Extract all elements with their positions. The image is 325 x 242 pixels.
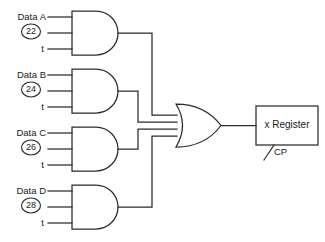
and-gate-c-number-circle	[22, 140, 41, 155]
cp-clock-label: CP	[274, 147, 287, 157]
and-gate-b-number-circle	[22, 82, 41, 97]
and-gate-a-number-circle	[22, 24, 41, 39]
and-gate-d-number-circle	[22, 198, 41, 213]
logic-diagram-canvas: Data A 22 t Data B 24 t Data C 26 t Data…	[0, 0, 325, 242]
x-register-label: x Register	[256, 120, 318, 130]
